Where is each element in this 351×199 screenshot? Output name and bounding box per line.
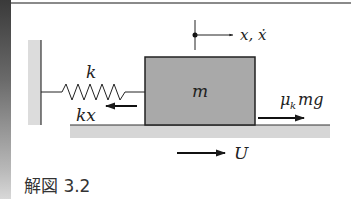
label-mg: mg: [298, 90, 323, 109]
label-m: m: [192, 81, 208, 101]
label-position: x, ẋ: [240, 26, 267, 44]
ground-belt: [70, 125, 330, 138]
figure: k m x, ẋ kx μ k mg U 解図 3.2: [0, 0, 351, 199]
label-mu-subscript: k: [290, 100, 296, 111]
label-k: k: [86, 62, 96, 82]
position-marker: [193, 20, 234, 50]
wall: [28, 40, 41, 125]
figure-caption: 解図 3.2: [24, 172, 90, 197]
label-kx: kx: [76, 105, 96, 125]
label-friction: μ k mg: [280, 90, 323, 111]
label-U: U: [234, 143, 249, 163]
label-mu: μ: [280, 90, 290, 109]
mass-spring-diagram: k m x, ẋ kx μ k mg U: [0, 0, 351, 199]
spring: [41, 84, 145, 100]
